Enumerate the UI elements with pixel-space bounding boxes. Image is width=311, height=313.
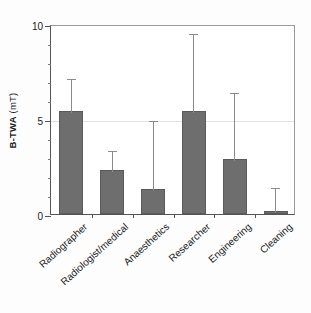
bar[interactable] (223, 159, 247, 214)
error-bar-cap (230, 93, 239, 94)
plot-area: 0510 (50, 25, 295, 215)
x-axis-category-label: Engineering (206, 221, 253, 265)
x-axis-tick (255, 214, 256, 218)
bar[interactable] (59, 111, 83, 214)
error-bar-stem (275, 188, 276, 214)
error-bar-stem (153, 121, 154, 191)
error-bar-cap (149, 121, 158, 122)
error-bar-cap (67, 79, 76, 80)
y-axis-tick (45, 121, 51, 122)
y-axis-label: B-TWA (mT) (0, 0, 26, 240)
chart-figure: B-TWA (mT) 0510 RadiographerRadiologist/… (0, 0, 311, 313)
error-bar-stem (71, 79, 72, 113)
y-axis-minor-tick (48, 197, 52, 198)
y-axis-tick-label: 0 (37, 211, 43, 222)
y-axis-minor-tick (48, 140, 52, 141)
error-bar-stem (112, 151, 113, 172)
error-bar-stem (234, 93, 235, 161)
error-bar-cap (189, 34, 198, 35)
y-axis-label-main: B-TWA (8, 116, 19, 148)
bar[interactable] (100, 170, 124, 214)
y-axis-tick (45, 216, 51, 217)
x-axis-tick (174, 214, 175, 218)
y-axis-minor-tick (48, 64, 52, 65)
x-axis-category-label: Researcher (166, 221, 212, 264)
y-axis-label-unit: (mT) (8, 92, 19, 113)
y-axis-minor-tick (48, 178, 52, 179)
y-axis-tick-label: 10 (32, 21, 43, 32)
x-axis-tick (92, 214, 93, 218)
bar[interactable] (141, 189, 165, 214)
error-bar-cap (271, 188, 280, 189)
gridline (51, 121, 294, 122)
y-axis-minor-tick (48, 159, 52, 160)
x-axis-category-label: Cleaning (257, 221, 294, 256)
x-axis-tick (133, 214, 134, 218)
error-bar-cap (108, 151, 117, 152)
y-axis-minor-tick (48, 83, 52, 84)
y-axis-minor-tick (48, 45, 52, 46)
x-axis-tick (214, 214, 215, 218)
bar[interactable] (182, 111, 206, 214)
y-axis-minor-tick (48, 102, 52, 103)
y-axis-tick (45, 26, 51, 27)
error-bar-stem (193, 34, 194, 114)
y-axis-tick-label: 5 (37, 116, 43, 127)
